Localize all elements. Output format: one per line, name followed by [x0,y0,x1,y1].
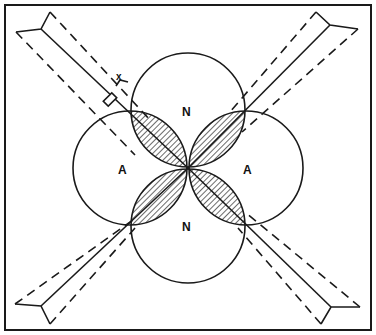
diagram-canvas: N N A A x [0,0,376,335]
label-marker-x: x [116,71,122,82]
circle-a-left [73,111,187,225]
label-n-top: N [182,105,191,119]
label-a-left: A [118,163,127,177]
label-n-bottom: N [182,220,191,234]
label-a-right: A [243,163,252,177]
beam-bottom-left [15,168,188,324]
sensor-box [103,93,116,106]
beam-top-left [16,12,188,168]
